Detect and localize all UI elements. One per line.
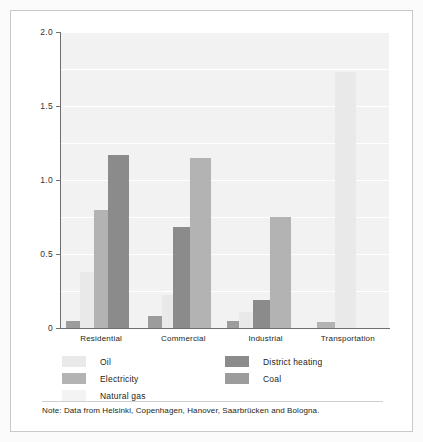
legend-swatch xyxy=(62,356,86,367)
y-axis-line xyxy=(60,32,61,329)
y-tick-mark xyxy=(56,180,60,181)
y-tick-mark xyxy=(56,328,60,329)
x-tick-label-transportation: Transportation xyxy=(321,334,375,343)
x-tick-label-residential: Residential xyxy=(80,334,122,343)
legend-swatch xyxy=(225,373,249,384)
legend-label: Electricity xyxy=(100,374,139,384)
legend-swatch xyxy=(62,373,86,384)
bar xyxy=(270,217,291,328)
x-tick-label-industrial: Industrial xyxy=(248,334,282,343)
y-tick-mark xyxy=(56,254,60,255)
note-text: Note: Data from Helsinki, Copenhagen, Ha… xyxy=(42,406,387,415)
bar xyxy=(108,155,129,328)
y-tick-label: 0.5 xyxy=(40,249,53,259)
bar xyxy=(190,158,211,328)
legend-item[interactable]: Oil xyxy=(62,356,111,367)
legend-item[interactable]: Natural gas xyxy=(62,390,146,401)
plot-area xyxy=(60,32,389,328)
gridline xyxy=(60,69,389,70)
legend-item[interactable]: Coal xyxy=(225,373,281,384)
legend-swatch xyxy=(225,356,249,367)
legend-item[interactable]: Electricity xyxy=(62,373,139,384)
bar xyxy=(335,72,356,328)
legend-label: District heating xyxy=(263,357,322,367)
y-tick-mark xyxy=(56,32,60,33)
legend-label: Coal xyxy=(263,374,281,384)
y-tick-mark xyxy=(56,106,60,107)
legend-item[interactable]: District heating xyxy=(225,356,322,367)
y-tick-label: 0 xyxy=(48,323,53,333)
legend-label: Natural gas xyxy=(100,391,146,401)
y-axis-ticks: 00.51.01.52.0 xyxy=(20,0,53,442)
x-axis-line xyxy=(60,328,390,329)
chart-page: 00.51.01.52.0 CO2 (tonnes per capita) Re… xyxy=(0,0,423,442)
x-tick-label-commercial: Commercial xyxy=(161,334,206,343)
note-divider xyxy=(42,401,383,402)
legend-swatch xyxy=(62,390,86,401)
y-tick-label: 1.0 xyxy=(40,175,53,185)
y-tick-label: 1.5 xyxy=(40,101,53,111)
gridline xyxy=(60,32,389,33)
legend-label: Oil xyxy=(100,357,111,367)
y-tick-label: 2.0 xyxy=(40,27,53,37)
